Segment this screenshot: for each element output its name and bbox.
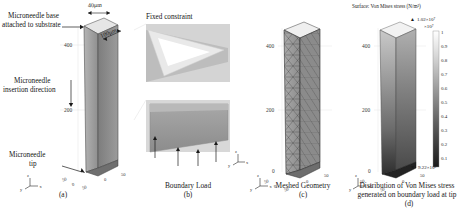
axis-triad-a bbox=[25, 178, 38, 189]
needle-front-face bbox=[84, 26, 98, 172]
colorbar-tick-10: 0.1 bbox=[441, 156, 447, 161]
panel-letter-c: (c) bbox=[288, 190, 318, 199]
panel-b: z x y Fixed constraint Boundary Load (b) bbox=[128, 0, 248, 200]
axis-tick-a-base-4: 50 bbox=[121, 172, 126, 177]
leader-arrow-base bbox=[62, 25, 84, 29]
axis-label-z-d: z bbox=[355, 173, 357, 178]
leader-arrow-tip bbox=[62, 166, 85, 173]
figure-root: z x y Microneedle base attached to subst… bbox=[0, 0, 465, 213]
caption-panel-c: Meshed Geometry bbox=[248, 181, 358, 190]
colorbar-tick-6: 0.5 bbox=[441, 100, 447, 105]
panel-d: z x y Surface: Von Mises stress (N/m²) 4… bbox=[352, 0, 465, 213]
panel-b-graphic: z x y bbox=[128, 0, 248, 200]
mesh-side-pattern bbox=[300, 29, 320, 170]
axis-tick-a-base-3: 0 bbox=[104, 177, 106, 182]
mesh-front-pattern bbox=[284, 30, 300, 174]
axis-tick-d-0: 0 bbox=[368, 168, 371, 174]
panel-letter-d: (d) bbox=[394, 199, 424, 208]
stress-front-face bbox=[380, 30, 396, 174]
axis-label-z-b: z bbox=[235, 149, 237, 154]
axis-tick-a-200: 200 bbox=[64, 107, 72, 113]
axis-label-z-c: z bbox=[257, 173, 259, 178]
arrow-insertion-direction bbox=[69, 80, 73, 107]
colorbar-gradient bbox=[433, 31, 439, 167]
stress-side-face bbox=[396, 29, 416, 170]
colorbar-min-value: 9.22×10³ bbox=[418, 165, 436, 170]
dimension-arrow-width bbox=[88, 11, 110, 15]
colorbar-max-marker: ▲ bbox=[410, 17, 415, 22]
panel-a: z x y Microneedle base attached to subst… bbox=[0, 0, 128, 200]
axis-label-z-a: z bbox=[27, 173, 29, 178]
annotation-tip-line1: Microneedle bbox=[9, 151, 45, 160]
caption-panel-d-line2: generated on boundary load at tip bbox=[346, 190, 465, 199]
colorbar-min-marker: ▼ bbox=[410, 165, 415, 170]
axis-tick-d-base-4: 50 bbox=[420, 173, 425, 178]
axis-tick-d-400: 400 bbox=[362, 43, 370, 49]
panel-c: z x y 400 200 0 50 0 50 0 50 Meshed Geom… bbox=[248, 0, 358, 200]
axis-tick-c-0: 0 bbox=[272, 168, 275, 174]
inset-connector-lines bbox=[134, 24, 146, 120]
annotation-insertion-line1: Microneedle bbox=[14, 77, 50, 86]
colorbar-tick-8: 0.3 bbox=[441, 128, 447, 133]
panel-c-graphic: z x y bbox=[248, 0, 358, 200]
label-fixed-constraint: Fixed constraint bbox=[146, 13, 193, 22]
colorbar-tick-2: 0.9 bbox=[441, 44, 447, 49]
annotation-base-line1: Microneedle base bbox=[8, 12, 59, 21]
dimension-label-width: 40μm bbox=[88, 2, 102, 8]
axis-label-x-a: x bbox=[40, 184, 43, 189]
axis-label-y-b: y bbox=[228, 163, 231, 168]
axis-triad-b bbox=[233, 154, 245, 165]
annotation-base-line2: attached to substrate bbox=[2, 21, 61, 30]
colorbar-tick-5: 0.6 bbox=[441, 86, 447, 91]
colorbar-tick-1: 1 bbox=[441, 30, 444, 35]
panel-letter-a: (a) bbox=[48, 190, 78, 199]
caption-panel-d-line1: Distribution of Von Mises stress bbox=[349, 181, 465, 190]
annotation-insertion-line2: insertion direction bbox=[3, 86, 56, 95]
axis-tick-c-base-4: 50 bbox=[324, 173, 329, 178]
annotation-tip-line2: tip bbox=[29, 160, 37, 169]
colorbar-tick-9: 0.2 bbox=[441, 142, 447, 147]
axis-tick-c-400: 400 bbox=[266, 43, 274, 49]
panel-letter-b: (b) bbox=[173, 190, 203, 199]
colorbar-tick-3: 0.8 bbox=[441, 58, 447, 63]
colorbar-tick-7: 0.4 bbox=[441, 114, 447, 119]
needle-side-face bbox=[98, 25, 118, 168]
axis-tick-c-200: 200 bbox=[266, 107, 274, 113]
axis-label-y-a: y bbox=[20, 187, 23, 192]
axis-tick-a-400: 400 bbox=[64, 42, 72, 48]
colorbar-tick-4: 0.7 bbox=[441, 72, 447, 77]
colorbar-multiplier: ×10⁷ bbox=[424, 24, 434, 29]
colorbar-max-value: 1.02×10⁷ bbox=[417, 17, 435, 22]
caption-panel-b: Boundary Load bbox=[142, 181, 234, 190]
plot-title-d: Surface: Von Mises stress (N/m²) bbox=[352, 3, 421, 9]
axis-tick-d-200: 200 bbox=[362, 107, 370, 113]
